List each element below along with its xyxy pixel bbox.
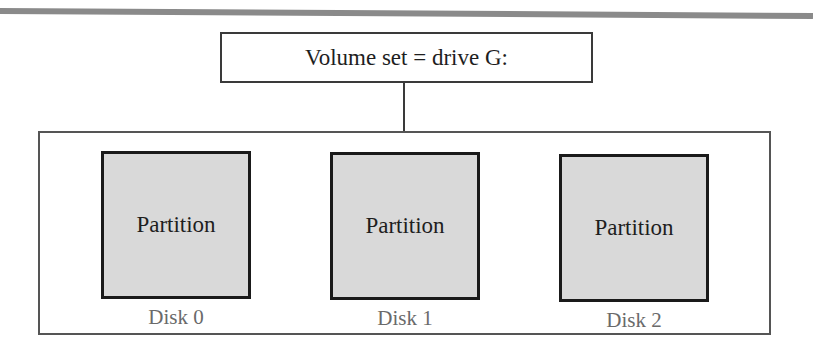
disk-label: Disk 1 [330, 306, 480, 331]
partition-label: Partition [365, 213, 444, 239]
volume-set-box: Volume set = drive G: [220, 32, 593, 83]
volume-set-label: Volume set = drive G: [305, 45, 508, 71]
partition-box: Partition [559, 154, 709, 302]
disk-label: Disk 0 [101, 305, 251, 330]
partition-box: Partition [330, 152, 480, 300]
disk-label: Disk 2 [559, 308, 709, 333]
top-divider-rule [0, 8, 813, 19]
partition-label: Partition [594, 215, 673, 241]
disk-2: Partition Disk 2 [559, 154, 709, 333]
disk-0: Partition Disk 0 [101, 151, 251, 330]
partition-box: Partition [101, 151, 251, 299]
disk-1: Partition Disk 1 [330, 152, 480, 331]
partition-label: Partition [136, 212, 215, 238]
connector-line [403, 82, 405, 132]
